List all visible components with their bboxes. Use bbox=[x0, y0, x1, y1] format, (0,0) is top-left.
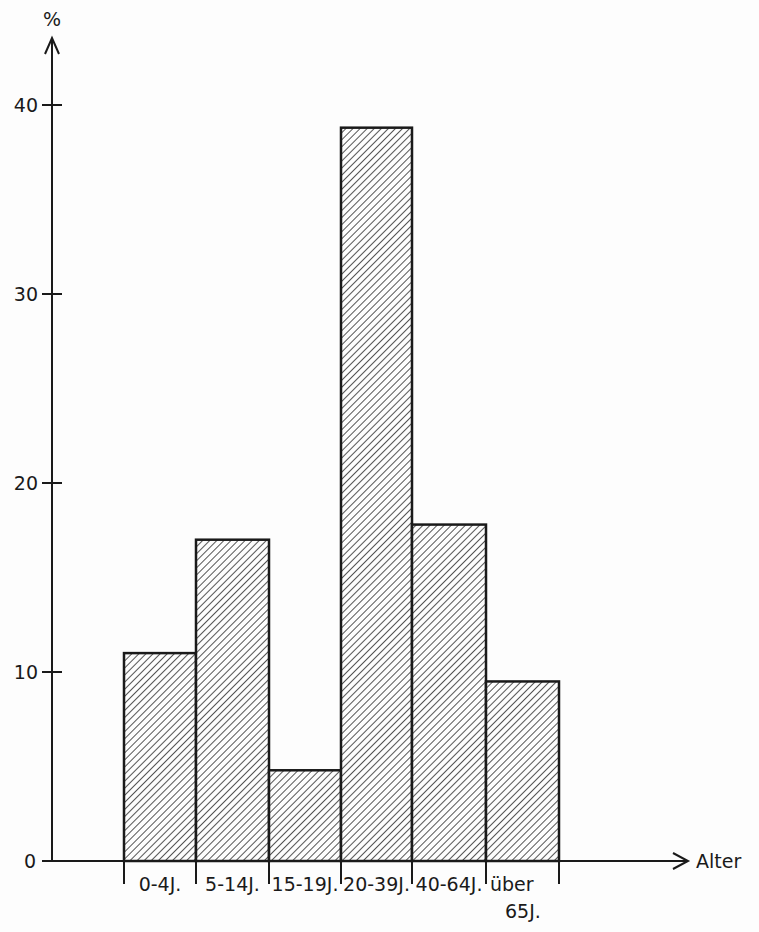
x-category-label: 20-39J. bbox=[343, 873, 410, 895]
bar-5 bbox=[486, 681, 559, 861]
x-category-label: 40-64J. bbox=[416, 873, 483, 895]
x-category-label: über bbox=[490, 873, 534, 895]
x-category-label: 0-4J. bbox=[139, 873, 182, 895]
x-axis-title: Alter bbox=[696, 850, 741, 872]
y-tick-label: 10 bbox=[14, 661, 38, 683]
y-axis-title: % bbox=[43, 8, 61, 30]
x-category-label: 15-19J. bbox=[272, 873, 339, 895]
bar-3 bbox=[341, 128, 412, 861]
bar-2 bbox=[269, 770, 341, 861]
bar-4 bbox=[412, 525, 486, 861]
bar-1 bbox=[196, 540, 269, 861]
bars-group bbox=[124, 128, 559, 861]
histogram-chart: 0102030400-4J.5-14J.15-19J.20-39J.40-64J… bbox=[0, 0, 759, 932]
x-category-label: 65J. bbox=[505, 900, 541, 922]
x-category-label: 5-14J. bbox=[205, 873, 260, 895]
y-tick-label: 30 bbox=[14, 283, 38, 305]
y-tick-label: 0 bbox=[24, 850, 36, 872]
bar-0 bbox=[124, 653, 196, 861]
y-tick-label: 40 bbox=[14, 94, 38, 116]
y-tick-label: 20 bbox=[14, 472, 38, 494]
